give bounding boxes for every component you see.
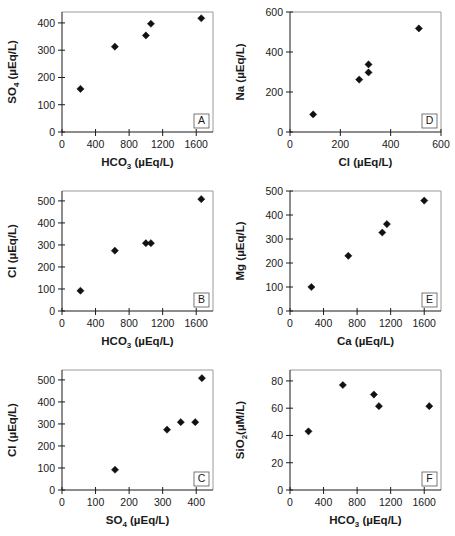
data-point — [177, 419, 184, 426]
y-axis-title: SO4 (µEq/L) — [6, 40, 21, 104]
panel-b: 0100200300400500040080012001600HCO3 (µEq… — [0, 179, 227, 357]
data-point — [77, 85, 84, 92]
y-tick-label: 400 — [265, 209, 283, 221]
y-tick-label: 300 — [37, 44, 55, 56]
y-tick-label: 100 — [37, 99, 55, 111]
y-tick-label: 200 — [265, 86, 283, 98]
y-tick-label: 100 — [37, 283, 55, 295]
x-tick-label: 600 — [432, 138, 450, 150]
x-tick-label: 1600 — [185, 138, 209, 150]
y-tick-label: 100 — [265, 281, 283, 293]
x-tick-label: 200 — [120, 496, 138, 508]
y-axis-title: Mg (µEq/L) — [234, 221, 246, 280]
x-axis-title: Cl (µEq/L) — [339, 156, 393, 168]
plot-frame — [62, 370, 213, 490]
plot-frame — [290, 191, 441, 311]
panel-letter: D — [426, 114, 434, 126]
x-tick-label: 0 — [59, 496, 65, 508]
x-tick-label: 0 — [59, 317, 65, 329]
panel-d: 02004006000200400600Cl (µEq/L)Na (µEq/L)… — [228, 0, 455, 178]
panel-c-plot: 01002003004005000100200300400SO4 (µEq/L)… — [0, 358, 227, 536]
panel-e: 0100200300400500040080012001600Ca (µEq/L… — [228, 179, 455, 357]
y-tick-label: 300 — [37, 239, 55, 251]
data-point — [415, 25, 422, 32]
x-axis-title: HCO3 (µEq/L) — [101, 156, 174, 171]
x-tick-label: 800 — [348, 496, 366, 508]
y-tick-label: 300 — [37, 418, 55, 430]
x-tick-label: 800 — [120, 138, 138, 150]
panel-b-plot: 0100200300400500040080012001600HCO3 (µEq… — [0, 179, 227, 357]
data-point — [305, 428, 312, 435]
data-point — [163, 426, 170, 433]
x-tick-label: 400 — [382, 138, 400, 150]
data-point — [147, 240, 154, 247]
panel-a: 0100200300400040080012001600HCO3 (µEq/L)… — [0, 0, 227, 178]
scatter-plot-figure: 0100200300400040080012001600HCO3 (µEq/L)… — [0, 0, 455, 536]
x-tick-label: 1600 — [413, 496, 437, 508]
x-axis-title: SO4 (µEq/L) — [106, 514, 170, 529]
data-point — [198, 15, 205, 22]
panel-letter: C — [198, 472, 206, 484]
panel-e-plot: 0100200300400500040080012001600Ca (µEq/L… — [228, 179, 455, 357]
y-tick-label: 300 — [265, 233, 283, 245]
data-point — [375, 403, 382, 410]
data-point — [421, 197, 428, 204]
plot-frame — [62, 191, 213, 311]
data-point — [77, 287, 84, 294]
y-tick-label: 0 — [49, 484, 55, 496]
x-tick-label: 200 — [332, 138, 350, 150]
plot-frame — [290, 370, 441, 490]
x-tick-label: 1200 — [379, 317, 403, 329]
data-point — [147, 20, 154, 27]
y-tick-label: 400 — [37, 217, 55, 229]
panel-a-plot: 0100200300400040080012001600HCO3 (µEq/L)… — [0, 0, 227, 178]
panel-letter: A — [198, 114, 205, 126]
x-tick-label: 400 — [87, 138, 105, 150]
x-tick-label: 400 — [87, 317, 105, 329]
data-point — [142, 32, 149, 39]
data-point — [111, 43, 118, 50]
data-point — [379, 229, 386, 236]
x-tick-label: 1600 — [185, 317, 209, 329]
panel-letter: B — [198, 293, 205, 305]
x-tick-label: 1600 — [413, 317, 437, 329]
y-axis-title: SiO2(µM/L) — [234, 401, 249, 460]
data-point — [426, 403, 433, 410]
x-tick-label: 100 — [87, 496, 105, 508]
x-axis-title: HCO3 (µEq/L) — [101, 335, 174, 350]
y-axis-title: Na (µEq/L) — [234, 43, 246, 100]
data-point — [192, 419, 199, 426]
data-point — [345, 252, 352, 259]
y-tick-label: 500 — [37, 195, 55, 207]
y-tick-label: 100 — [37, 462, 55, 474]
y-tick-label: 400 — [265, 46, 283, 58]
y-tick-label: 80 — [271, 375, 283, 387]
data-point — [111, 466, 118, 473]
x-tick-label: 0 — [287, 138, 293, 150]
data-point — [365, 69, 372, 76]
y-tick-label: 200 — [37, 440, 55, 452]
panel-letter: E — [426, 293, 433, 305]
x-tick-label: 1200 — [379, 496, 403, 508]
x-axis-title: HCO3 (µEq/L) — [329, 514, 402, 529]
data-point — [111, 247, 118, 254]
y-tick-label: 500 — [265, 185, 283, 197]
x-tick-label: 400 — [187, 496, 205, 508]
panel-f-plot: 020406080040080012001600HCO3 (µEq/L)SiO2… — [228, 358, 455, 536]
y-axis-title: Cl (µEq/L) — [6, 403, 18, 457]
x-tick-label: 400 — [315, 317, 333, 329]
y-tick-label: 600 — [265, 6, 283, 18]
x-tick-label: 0 — [59, 138, 65, 150]
y-tick-label: 200 — [37, 71, 55, 83]
panel-letter: F — [426, 472, 432, 484]
y-tick-label: 0 — [277, 305, 283, 317]
data-point — [308, 283, 315, 290]
x-tick-label: 1200 — [151, 317, 175, 329]
y-tick-label: 0 — [277, 484, 283, 496]
data-point — [198, 375, 205, 382]
y-tick-label: 400 — [37, 17, 55, 29]
y-tick-label: 60 — [271, 402, 283, 414]
x-tick-label: 0 — [287, 496, 293, 508]
y-tick-label: 200 — [37, 261, 55, 273]
y-tick-label: 0 — [49, 305, 55, 317]
